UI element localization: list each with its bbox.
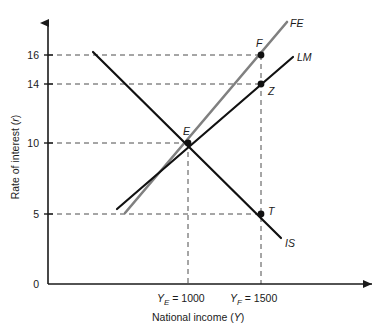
chart-figure: 16 14 10 5 0 Rate of interest (r) YE = 1… bbox=[0, 0, 391, 328]
y-axis-title-symbol: r bbox=[9, 118, 21, 122]
yf-symbol: Y bbox=[230, 292, 237, 304]
curve-label-fe: FE bbox=[290, 18, 303, 29]
point-label-z: Z bbox=[268, 86, 274, 97]
y-tick-label-14: 14 bbox=[17, 79, 39, 90]
point-label-e: E bbox=[183, 126, 190, 137]
point-marker-f bbox=[258, 52, 265, 59]
point-marker-z bbox=[258, 81, 265, 88]
y-axis-title-wrapper: Rate of interest (r) bbox=[5, 92, 23, 222]
axes-group bbox=[48, 23, 372, 284]
curve-label-lm: LM bbox=[297, 52, 312, 63]
fe-curve bbox=[125, 22, 287, 213]
point-label-t: T bbox=[268, 206, 274, 217]
x-annotation-ye: YE = 1000 bbox=[157, 293, 205, 307]
point-marker-t bbox=[258, 211, 265, 218]
yf-value: = 1500 bbox=[242, 292, 277, 304]
point-label-f: F bbox=[256, 38, 262, 49]
chart-plot-area bbox=[0, 0, 391, 328]
curve-label-is: IS bbox=[285, 238, 295, 249]
ye-value: = 1000 bbox=[169, 292, 204, 304]
x-axis-title: National income (Y) bbox=[152, 312, 244, 323]
y-tick-label-0: 0 bbox=[17, 279, 39, 290]
annotated-points-group bbox=[185, 52, 265, 218]
ye-symbol: Y bbox=[157, 292, 164, 304]
x-annotation-yf: YF = 1500 bbox=[230, 293, 277, 307]
lm-curve bbox=[117, 57, 293, 209]
point-marker-e bbox=[185, 140, 192, 147]
x-axis-title-symbol: Y bbox=[234, 311, 241, 323]
y-tick-label-16: 16 bbox=[17, 50, 39, 61]
y-axis-title: Rate of interest (r) bbox=[9, 115, 21, 200]
